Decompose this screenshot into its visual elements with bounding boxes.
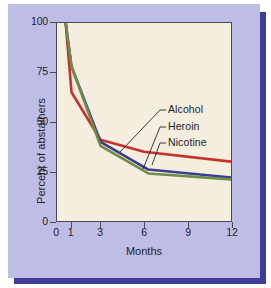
leader-line-alcohol — [120, 110, 160, 152]
leader-lines — [0, 0, 271, 288]
chart-figure: Percent of abstainers 0255075100 0136912… — [0, 0, 271, 288]
leader-line-nicotine — [152, 143, 160, 165]
series-label-heroin: Heroin — [168, 120, 200, 132]
series-label-alcohol: Alcohol — [168, 103, 203, 115]
leader-line-heroin — [143, 127, 160, 169]
series-label-nicotine: Nicotine — [168, 136, 207, 148]
